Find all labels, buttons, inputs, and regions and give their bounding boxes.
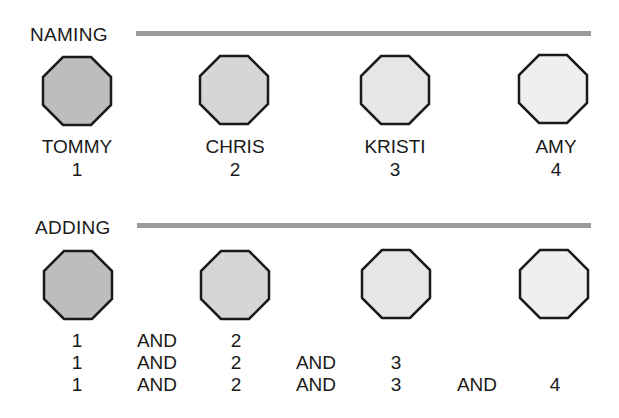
octagon-2-icon <box>199 249 271 321</box>
child-number-4: 4 <box>506 160 606 180</box>
sum-row-3-term-4: 4 <box>505 375 605 395</box>
octagon-amy-icon <box>517 53 589 125</box>
adding-divider-bar <box>137 223 591 228</box>
adding-heading: ADDING <box>35 218 111 238</box>
octagon-4-icon <box>518 248 590 320</box>
naming-divider-bar <box>136 31 591 36</box>
child-number-1: 1 <box>27 160 127 180</box>
naming-heading: NAMING <box>30 25 108 45</box>
octagon-3-icon <box>360 248 432 320</box>
octagon-tommy-icon <box>41 55 113 127</box>
child-name-amy: AMY <box>506 137 606 157</box>
octagon-kristi-icon <box>359 54 431 126</box>
child-number-3: 3 <box>345 160 445 180</box>
child-name-chris: CHRIS <box>185 137 285 157</box>
child-name-kristi: KRISTI <box>345 137 445 157</box>
child-name-tommy: TOMMY <box>27 137 127 157</box>
sum-row-2-term-3: 3 <box>346 353 446 373</box>
octagon-chris-icon <box>198 54 270 126</box>
child-number-2: 2 <box>185 160 285 180</box>
sum-row-1-term-2: 2 <box>186 331 286 351</box>
octagon-1-icon <box>42 249 114 321</box>
